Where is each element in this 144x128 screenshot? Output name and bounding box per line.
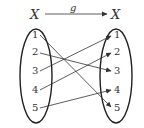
domain-label: X bbox=[29, 7, 40, 22]
domain-element-1: 1 bbox=[32, 29, 38, 40]
function-mapping-diagram: X X g 1 2 3 4 5 1 2 3 4 5 bbox=[0, 0, 144, 128]
domain-element-4: 4 bbox=[32, 84, 38, 95]
codomain-element-2: 2 bbox=[114, 46, 120, 57]
domain-element-2: 2 bbox=[32, 46, 38, 57]
diagram-canvas: X X g 1 2 3 4 5 1 2 3 4 5 bbox=[0, 0, 144, 128]
codomain-element-4: 4 bbox=[114, 84, 120, 95]
codomain-element-5: 5 bbox=[114, 102, 120, 113]
domain-element-5: 5 bbox=[32, 102, 38, 113]
domain-element-3: 3 bbox=[32, 65, 38, 76]
function-label: g bbox=[70, 2, 76, 13]
codomain-label: X bbox=[110, 7, 121, 22]
codomain-element-1: 1 bbox=[114, 29, 120, 40]
codomain-element-3: 3 bbox=[114, 65, 120, 76]
